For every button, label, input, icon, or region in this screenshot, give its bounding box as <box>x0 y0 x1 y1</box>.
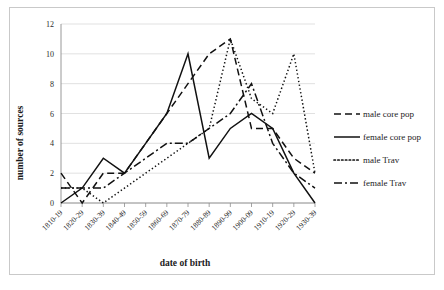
x-tick-label: 1850-59 <box>125 208 149 232</box>
legend-label: male Trav <box>363 155 400 165</box>
x-tick-label: 1810-19 <box>40 208 64 232</box>
x-tick-label: 1920-29 <box>273 208 297 232</box>
y-axis-title: number of sources <box>15 105 25 180</box>
x-tick-label: 1930-39 <box>294 208 318 232</box>
legend-label: male core pop <box>363 109 414 119</box>
legend-label: female Trav <box>363 178 407 188</box>
y-tick-labels-group: 024681012 <box>46 20 54 208</box>
y-tick-label: 10 <box>46 50 54 59</box>
y-tick-label: 8 <box>50 80 54 89</box>
x-tick-label: 1830-39 <box>82 208 106 232</box>
series-line <box>61 39 315 203</box>
chart-figure: 024681012 1810-191820-291830-391840-4918… <box>0 0 444 290</box>
x-tick-label: 1910-19 <box>252 208 276 232</box>
x-tick-label: 1880-89 <box>188 208 212 232</box>
series-line <box>61 54 315 203</box>
x-tick-label: 1870-79 <box>167 208 191 232</box>
x-tickmarks-group <box>61 203 315 207</box>
x-tick-labels-group: 1810-191820-291830-391840-491850-591860-… <box>40 208 318 232</box>
x-tick-label: 1820-29 <box>61 208 85 232</box>
legend-label: female core pop <box>363 132 421 142</box>
x-tick-label: 1890-99 <box>209 208 233 232</box>
x-tick-label: 1840-49 <box>104 208 128 232</box>
y-tick-label: 4 <box>50 139 54 148</box>
x-axis-title: date of birth <box>160 258 211 268</box>
data-series-group <box>61 39 315 203</box>
y-tick-label: 12 <box>46 20 54 29</box>
line-chart: 024681012 1810-191820-291830-391840-4918… <box>0 0 444 290</box>
chart-legend: male core popfemale core popmale Travfem… <box>334 109 421 188</box>
y-tick-label: 2 <box>50 169 54 178</box>
y-tick-label: 0 <box>50 199 54 208</box>
gridlines-group <box>61 24 315 203</box>
x-tick-label: 1900-09 <box>231 208 255 232</box>
x-tick-label: 1860-69 <box>146 208 170 232</box>
y-tick-label: 6 <box>50 110 54 119</box>
